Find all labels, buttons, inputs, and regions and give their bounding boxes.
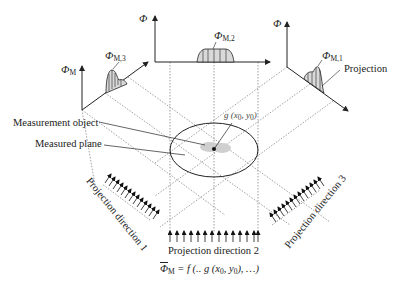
- profile-label-m2: ΦM,2: [214, 30, 235, 43]
- formula: ΦM = f (.. g (x0, y0), …): [160, 264, 259, 276]
- top-axis-label: Φ: [139, 13, 147, 24]
- projection-label: Projection: [344, 64, 387, 75]
- point-label: g (x0, y0): [224, 111, 257, 122]
- projection-direction-2-label: Projection direction 2: [168, 246, 259, 257]
- measurement-object-label: Measurement object: [13, 118, 98, 129]
- right-projection-axis: [287, 22, 348, 111]
- right-axis-label: Φ: [273, 18, 281, 29]
- profile-label-m1: ΦM,1: [322, 50, 343, 63]
- profile-label-m3: ΦM,3: [105, 50, 126, 63]
- projection-direction-2-arrows: [170, 231, 258, 242]
- left-axis-label: ΦM: [61, 64, 76, 77]
- measured-plane-label: Measured plane: [35, 139, 102, 150]
- top-projection-axis: [155, 16, 270, 62]
- left-projection-axis: [82, 62, 148, 110]
